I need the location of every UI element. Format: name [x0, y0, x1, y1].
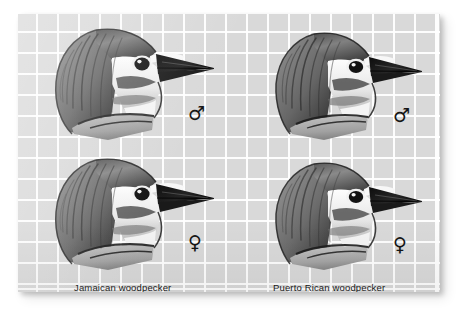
eye-pupil — [134, 58, 149, 71]
bird-illustration-jamaican-male — [38, 24, 218, 144]
eye-highlight — [352, 193, 356, 196]
eye-pupil — [134, 188, 149, 201]
male-symbol: ♂ — [188, 104, 205, 123]
eye-highlight — [137, 190, 141, 194]
gape-line — [157, 198, 214, 199]
bird-illustration-puertorican-male — [258, 26, 428, 144]
woodpecker-head-drawing — [38, 154, 218, 274]
gape-line — [370, 201, 422, 202]
species-caption-puertorican: Puerto Rican woodpecker — [273, 282, 385, 292]
woodpecker-head-drawing — [38, 24, 218, 144]
female-symbol: ♀ — [188, 233, 202, 252]
bird-illustration-jamaican-female — [38, 154, 218, 274]
eye-highlight — [137, 60, 141, 64]
gape-line — [370, 71, 422, 72]
eye-pupil — [349, 191, 363, 203]
woodpecker-head-drawing — [258, 26, 428, 144]
eye-highlight — [352, 63, 356, 66]
species-caption-jamaican: Jamaican woodpecker — [74, 282, 171, 292]
figure-root: ♂ ♂ ♀ ♀ Jamaican woodpecker Puerto Rican… — [0, 0, 464, 312]
bird-illustration-puertorican-female — [258, 156, 428, 274]
eye-pupil — [349, 61, 363, 73]
gape-line — [157, 68, 214, 69]
woodpecker-head-drawing — [258, 156, 428, 274]
male-symbol: ♂ — [393, 106, 410, 125]
graph-paper-plate: ♂ ♂ ♀ ♀ Jamaican woodpecker Puerto Rican… — [18, 14, 440, 292]
female-symbol: ♀ — [393, 235, 407, 254]
